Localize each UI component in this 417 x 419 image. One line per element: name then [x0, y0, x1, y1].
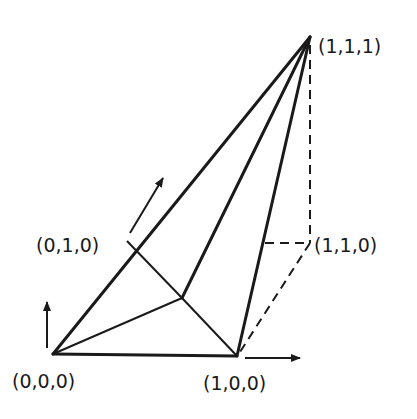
label-010: (0,1,0)	[36, 234, 99, 256]
edge-100-111	[237, 37, 310, 356]
edge-center-100	[182, 298, 237, 356]
simplex-diagram: (1,1,1) (0,1,0) (1,1,0) (0,0,0) (1,0,0)	[0, 0, 417, 419]
edge-center-111	[182, 37, 310, 298]
label-100: (1,0,0)	[203, 372, 266, 394]
label-111: (1,1,1)	[318, 35, 381, 57]
label-110: (1,1,0)	[314, 234, 377, 256]
dashed-edges	[240, 45, 310, 352]
label-000: (0,0,0)	[12, 370, 75, 392]
edge-000-111	[53, 37, 310, 354]
edge-000-center	[53, 298, 182, 354]
thin-edges	[53, 241, 237, 356]
thick-edges	[53, 37, 310, 356]
edge-000-100	[53, 354, 237, 356]
edge-010-center	[127, 241, 182, 298]
